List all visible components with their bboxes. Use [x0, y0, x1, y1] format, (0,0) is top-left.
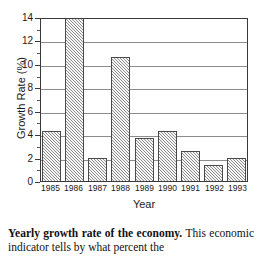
bar: [158, 131, 177, 181]
y-axis-tick: 10: [0, 65, 40, 66]
bar: [65, 18, 84, 181]
y-tick-label: 4: [27, 128, 33, 141]
bar: [135, 138, 154, 181]
y-tick-label: 0: [27, 175, 33, 188]
y-tick-label: 12: [22, 34, 33, 47]
y-tick-label: 10: [22, 58, 33, 71]
y-axis-minor-tick: [0, 53, 40, 54]
bar: [204, 165, 223, 181]
bar: [111, 57, 130, 181]
x-axis-label: Year: [40, 198, 248, 210]
y-axis-minor-tick: [0, 100, 40, 101]
bar: [181, 151, 200, 181]
x-axis-tick-label: 1989: [134, 184, 154, 194]
y-tick-label: 6: [27, 105, 33, 118]
x-axis-tick-label: 1993: [227, 184, 247, 194]
x-axis-tick-label: 1987: [87, 184, 107, 194]
y-axis-tick: 12: [0, 41, 40, 42]
y-tick-mark: [35, 182, 40, 183]
y-axis-minor-tick: [0, 147, 40, 148]
figure: Growth Rate (%) 02468101214 198519861987…: [0, 0, 260, 216]
x-axis-tick-label: 1986: [64, 184, 84, 194]
x-axis-tick-label: 1988: [111, 184, 131, 194]
x-axis-tick-label: 1985: [40, 184, 60, 194]
y-tick-label: 14: [22, 11, 33, 24]
y-tick-label: 8: [27, 81, 33, 94]
y-axis-tick: 4: [0, 135, 40, 136]
x-axis-tick-label: 1992: [204, 184, 224, 194]
y-tick-label: 2: [27, 152, 33, 165]
y-axis-tick: 8: [0, 88, 40, 89]
caption-title: Yearly growth rate of the economy.: [8, 227, 182, 239]
bar: [42, 131, 61, 181]
figure-caption: Yearly growth rate of the economy. This …: [8, 226, 254, 254]
y-axis-tick: 6: [0, 112, 40, 113]
y-axis-minor-tick: [0, 170, 40, 171]
x-axis-tick-label: 1990: [157, 184, 177, 194]
y-axis-tick: 0: [0, 182, 40, 183]
bar: [88, 158, 107, 181]
y-axis: 02468101214: [0, 18, 40, 182]
bar-chart: Growth Rate (%) 02468101214 198519861987…: [0, 0, 260, 216]
y-axis-minor-tick: [0, 77, 40, 78]
y-axis-tick: 2: [0, 159, 40, 160]
y-axis-tick: 14: [0, 18, 40, 19]
bar: [227, 158, 246, 181]
plot-area: [40, 18, 248, 182]
x-axis-tick-label: 1991: [181, 184, 201, 194]
bars-container: [41, 19, 247, 181]
y-axis-minor-tick: [0, 123, 40, 124]
y-axis-minor-tick: [0, 30, 40, 31]
x-axis-tick-labels: 198519861987198819891990199119921993: [40, 184, 248, 193]
